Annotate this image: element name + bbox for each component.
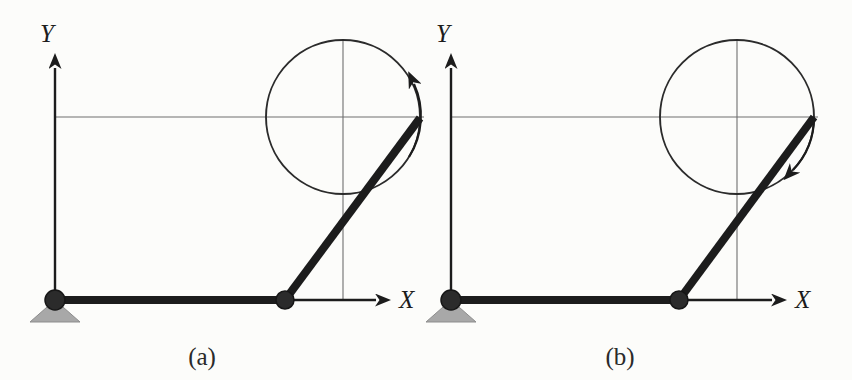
mechanism-figure: Y X (a) Y X (0, 0, 852, 380)
panel-a-caption: (a) (188, 343, 216, 371)
panel-a-crank-link (285, 118, 420, 300)
panel-b: Y X (b) (426, 20, 818, 371)
panel-a-middle-joint (276, 291, 294, 309)
panel-a-ground-pivot-joint (45, 290, 65, 310)
panel-a: Y X (a) (30, 20, 424, 371)
panel-b-crank-link (679, 117, 814, 300)
panel-a-y-axis-label: Y (40, 20, 57, 47)
panel-b-middle-joint (670, 291, 688, 309)
figure-root: Y X (a) Y X (0, 0, 852, 380)
panel-b-ground-pivot-joint (441, 290, 461, 310)
panel-b-y-axis-label: Y (436, 20, 453, 47)
panel-a-x-axis-label: X (398, 286, 416, 313)
panel-b-x-axis-label: X (794, 286, 812, 313)
panel-b-caption: (b) (605, 343, 634, 371)
